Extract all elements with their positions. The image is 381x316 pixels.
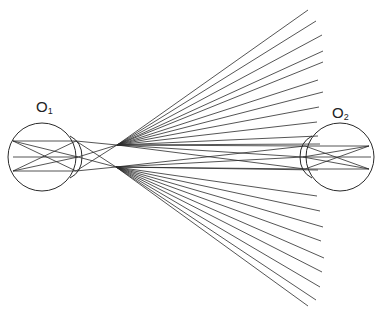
lower-fan-ray	[116, 167, 316, 300]
ray-line	[116, 146, 305, 167]
right-eye-label-main: O	[332, 104, 344, 121]
lower-fan-ray	[116, 167, 324, 258]
lower-fan-ray	[116, 167, 323, 227]
ray-line	[13, 141, 78, 157]
upper-ray-fan	[117, 10, 323, 145]
ray-line	[78, 157, 116, 167]
upper-fan-ray	[117, 144, 320, 145]
upper-fan-ray	[117, 35, 322, 145]
lower-ray-fan	[116, 167, 324, 306]
left-eye-label-subscript: 1	[48, 106, 53, 116]
lower-fan-ray	[116, 167, 317, 196]
upper-fan-ray	[117, 10, 308, 145]
ray-line	[13, 157, 78, 171]
upper-fan-ray	[117, 122, 317, 145]
lower-fan-ray	[116, 167, 320, 287]
ray-diagram-canvas	[0, 0, 381, 316]
upper-fan-ray	[117, 62, 323, 145]
left-eye-label-main: O	[36, 98, 48, 115]
lower-fan-ray	[116, 167, 322, 272]
connecting-rays	[13, 141, 371, 171]
ray-line	[117, 145, 303, 157]
ray-line	[76, 141, 117, 145]
left-eye-label: O1	[36, 99, 53, 116]
right-eye-label: O2	[332, 105, 349, 122]
right-eye-label-subscript: 2	[344, 112, 349, 122]
upper-fan-ray	[117, 51, 323, 145]
ray-diagram: O1 O2	[0, 0, 381, 316]
lower-fan-ray	[116, 167, 321, 241]
ray-line	[303, 157, 369, 169]
ray-line	[303, 146, 369, 157]
